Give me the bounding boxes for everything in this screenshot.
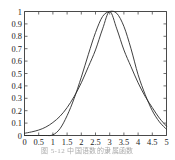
data-curves: [25, 11, 167, 135]
axis-ticks: [25, 12, 167, 136]
y-tick-label: 0.9: [12, 20, 22, 29]
y-tick-label: 0.8: [12, 32, 22, 41]
y-tick-label: 1: [18, 8, 22, 17]
gaussian-curve: [25, 12, 167, 134]
y-tick-label: 0.5: [12, 70, 22, 79]
y-tick-label: 0.7: [12, 45, 22, 54]
y-tick-label: 0: [18, 132, 22, 141]
y-tick-label: 0.1: [12, 119, 22, 128]
membership-function-plot: 00.10.20.30.40.50.60.70.80.91 00.511.522…: [0, 0, 175, 146]
figure-container: 00.10.20.30.40.50.60.70.80.91 00.511.522…: [0, 0, 175, 160]
figure-caption: 图 5-12 中国语数的隶属函数: [0, 145, 175, 155]
y-tick-label: 0.3: [12, 94, 22, 103]
chart-figure: 00.10.20.30.40.50.60.70.80.91 00.511.522…: [0, 0, 175, 146]
pi-shaped-curve: [25, 11, 167, 135]
y-tick-label: 0.6: [12, 57, 22, 66]
y-axis-tick-labels: 00.10.20.30.40.50.60.70.80.91: [12, 8, 23, 141]
axis-box: [25, 12, 167, 136]
y-tick-label: 0.2: [12, 107, 22, 116]
plot-frame: [25, 12, 167, 136]
y-tick-label: 0.4: [12, 82, 23, 91]
